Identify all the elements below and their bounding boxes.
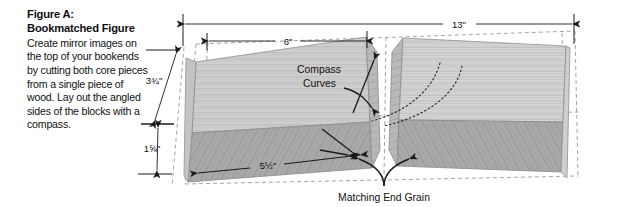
dimension-inner-width-label: 6" — [284, 36, 293, 47]
figure-container: Figure A: Bookmatched Figure Create mirr… — [0, 0, 618, 207]
dimension-lower-height-label: 1⅝" — [144, 143, 161, 154]
left-block — [184, 37, 380, 182]
right-block-front-face — [397, 120, 563, 172]
dimension-total-height-label: 3¾" — [146, 75, 163, 86]
dimension-lower-height: 1⅝" — [138, 124, 174, 174]
dimension-overall-width-label: 13" — [452, 19, 466, 30]
matching-end-grain-label: Matching End Grain — [338, 192, 430, 203]
right-block-top-face — [399, 38, 566, 122]
left-block-top-face — [192, 37, 370, 133]
bookmatched-blocks-diagram: 13" 6" 3¾" 1⅝" 5½" — [0, 0, 618, 207]
compass-curves-label-line2: Curves — [303, 78, 336, 89]
dimension-block-length-label: 5½" — [260, 160, 277, 171]
compass-curves-label-line1: Compass — [297, 64, 341, 75]
right-block — [389, 38, 570, 178]
dimension-total-height: 3¾" — [141, 50, 180, 124]
